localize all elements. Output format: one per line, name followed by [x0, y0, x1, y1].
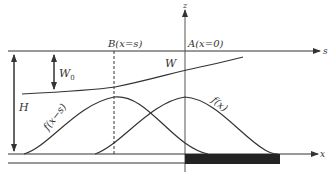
- B-label: B(x=s): [107, 38, 142, 49]
- W-label: W: [165, 57, 178, 70]
- W0-label: W0: [59, 67, 75, 82]
- H-label: H: [18, 101, 29, 114]
- f-shifted-label: f(x−s): [40, 101, 68, 133]
- x-axis-label: x: [320, 149, 325, 159]
- z-axis-label: z: [182, 1, 188, 10]
- A-label: A(x=0): [187, 38, 224, 49]
- f-original-label: f(x): [209, 93, 230, 113]
- W-curve: [22, 57, 243, 94]
- diagram-canvas: s z x H W0 W B(x=s) A(x=0) f(x−s) f(x): [0, 0, 333, 172]
- filled-region: [185, 154, 280, 164]
- s-axis-label: s: [323, 46, 328, 56]
- f-original-curve: [95, 97, 278, 154]
